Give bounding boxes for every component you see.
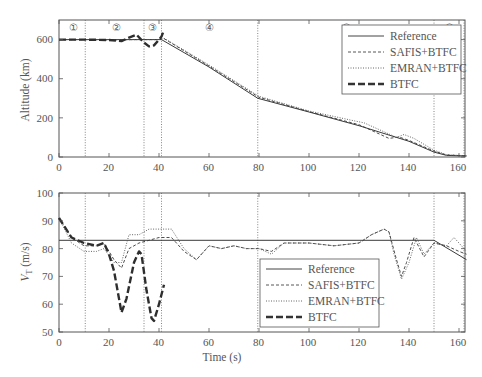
altitude-plot: 0 200 400 600 0 20 40 60 80 100 120 140 … (19, 20, 467, 173)
vx-tick-60: 60 (203, 336, 215, 348)
vy-tick-90: 90 (42, 215, 54, 227)
phase-label-4: ④ (205, 22, 214, 33)
vy-tick-50: 50 (42, 326, 54, 338)
vx-tick-120: 120 (350, 336, 367, 348)
vx-tick-40: 40 (153, 336, 165, 348)
y-tick-400: 400 (37, 72, 54, 84)
altitude-legend: Reference SAFIS+BTFC EMRAN+BTFC BTFC (342, 25, 467, 94)
y-tick-200: 200 (37, 112, 54, 124)
vlegend-label-safis: SAFIS+BTFC (308, 279, 375, 291)
vy-tick-70: 70 (42, 270, 54, 282)
vlegend-label-emran: EMRAN+BTFC (308, 295, 385, 307)
legend-label-emran: EMRAN+BTFC (390, 62, 467, 74)
x-tick-80: 80 (253, 161, 265, 173)
vy-tick-100: 100 (37, 187, 54, 199)
vx-tick-100: 100 (300, 336, 317, 348)
vy-tick-60: 60 (42, 298, 54, 310)
altitude-axis-label: Altitude (km) (19, 58, 32, 121)
vy-tick-80: 80 (42, 243, 54, 255)
velocity-axis-label: VT (m/s) (19, 242, 34, 281)
y-tick-0: 0 (48, 151, 54, 163)
x-tick-100: 100 (300, 161, 317, 173)
phase-label-1: ① (69, 22, 78, 33)
y-tick-600: 600 (37, 33, 54, 45)
x-tick-160: 160 (450, 161, 467, 173)
x-tick-120: 120 (350, 161, 367, 173)
x-tick-40: 40 (153, 161, 165, 173)
vlegend-label-reference: Reference (308, 263, 355, 275)
velocity-legend: Reference SAFIS+BTFC EMRAN+BTFC BTFC (260, 259, 385, 327)
velocity-plot: 50 60 70 80 90 100 0 20 40 60 80 100 120… (19, 187, 467, 364)
velocity-x-tick-labels: 0 20 40 60 80 100 120 140 160 (56, 336, 467, 348)
legend-label-reference: Reference (390, 30, 437, 42)
legend-label-btfc: BTFC (390, 78, 419, 90)
x-tick-140: 140 (400, 161, 417, 173)
legend-label-safis: SAFIS+BTFC (390, 46, 457, 58)
vx-tick-140: 140 (400, 336, 417, 348)
vx-tick-160: 160 (450, 336, 467, 348)
figure: 0 200 400 600 0 20 40 60 80 100 120 140 … (0, 0, 482, 377)
vx-tick-0: 0 (56, 336, 62, 348)
x-tick-60: 60 (203, 161, 215, 173)
phase-label-2: ② (112, 22, 121, 33)
phase-label-3: ③ (148, 22, 157, 33)
time-axis-label: Time (s) (203, 351, 242, 364)
vlegend-label-btfc: BTFC (308, 311, 337, 323)
x-tick-20: 20 (103, 161, 115, 173)
x-tick-0: 0 (56, 161, 62, 173)
vx-tick-20: 20 (103, 336, 115, 348)
velocity-axis-label-unit: (m/s) (19, 242, 32, 269)
vx-tick-80: 80 (253, 336, 265, 348)
altitude-x-tick-labels: 0 20 40 60 80 100 120 140 160 (56, 161, 467, 173)
